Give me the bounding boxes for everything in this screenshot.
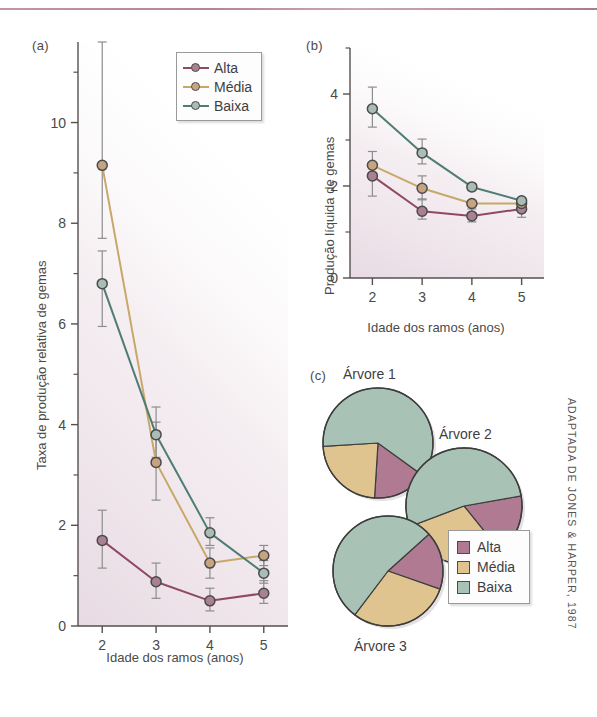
panel-b-plot: 0242345 (296, 30, 596, 360)
svg-text:6: 6 (58, 316, 66, 332)
svg-text:5: 5 (518, 289, 526, 305)
legend-c-item-media[interactable]: Média (457, 557, 515, 577)
legend-item-baixa[interactable]: Baixa (183, 96, 252, 115)
svg-text:4: 4 (468, 289, 476, 305)
line-marker-icon-media (183, 81, 209, 93)
legend-item-alta[interactable]: Alta (183, 58, 252, 77)
panel-a-xlabel: Idade dos ramos (anos) (60, 650, 290, 665)
legend-label-media: Média (214, 79, 252, 95)
swatch-icon-alta (457, 541, 470, 554)
line-marker-icon-baixa (183, 100, 209, 112)
pie-slice-média (323, 443, 378, 498)
panel-a-ylabel: Taxa de produção relativa de gemas (34, 260, 49, 470)
panel-b-ylabel: Produção líquida de gemas (322, 137, 337, 295)
legend-c-item-baixa[interactable]: Baixa (457, 577, 515, 597)
legend-label-alta: Alta (214, 60, 238, 76)
panel-a-legend: Alta Média Baixa (176, 52, 262, 121)
svg-text:4: 4 (58, 417, 66, 433)
swatch-icon-media (457, 561, 470, 574)
svg-text:2: 2 (58, 517, 66, 533)
panel-b: (b) 0242345 Produção líquida de gemas Id… (296, 30, 596, 360)
panel-c: (c) Árvore 1 Árvore 2 Árvore 3 Alta Médi… (296, 358, 596, 688)
panel-c-legend: Alta Média Baixa (448, 530, 530, 604)
svg-text:4: 4 (330, 86, 338, 102)
legend-item-media[interactable]: Média (183, 77, 252, 96)
svg-text:3: 3 (418, 289, 426, 305)
legend-c-item-alta[interactable]: Alta (457, 537, 515, 557)
svg-text:0: 0 (58, 618, 66, 634)
panel-a: (a) 02468102345 Taxa de produção relativ… (0, 0, 300, 690)
legend-c-label-media: Média (477, 559, 515, 575)
svg-text:2: 2 (368, 289, 376, 305)
svg-text:8: 8 (58, 215, 66, 231)
source-credit: ADAPTADA DE JONES & HARPER, 1987 (566, 398, 578, 630)
svg-text:10: 10 (50, 115, 66, 131)
legend-label-baixa: Baixa (214, 98, 249, 114)
line-marker-icon-alta (183, 62, 209, 74)
swatch-icon-baixa (457, 581, 470, 594)
panel-c-pies (296, 358, 596, 688)
legend-c-label-baixa: Baixa (477, 579, 512, 595)
figure-root: (a) 02468102345 Taxa de produção relativ… (0, 0, 597, 717)
legend-c-label-alta: Alta (477, 539, 501, 555)
panel-b-xlabel: Idade dos ramos (anos) (336, 320, 536, 335)
